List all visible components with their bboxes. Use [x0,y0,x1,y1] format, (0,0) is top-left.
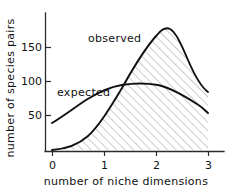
expected-label: expected [57,86,110,99]
chart-figure: 150 100 50 0 1 2 3 observed expected num… [0,0,232,191]
x-axis-title: number of niche dimensions [44,175,208,188]
observed-label: observed [88,32,141,45]
y-axis-title: number of species pairs [4,18,17,157]
x-tick-label-2: 2 [153,159,160,172]
y-tick-label-150: 150 [21,41,42,54]
x-tick-label-0: 0 [49,159,56,172]
x-tick-label-3: 3 [205,159,212,172]
y-tick-label-100: 100 [21,75,42,88]
y-tick-label-50: 50 [28,109,42,122]
x-tick-label-1: 1 [101,159,108,172]
chart-plot-area: 150 100 50 0 1 2 3 observed expected num… [0,0,232,191]
